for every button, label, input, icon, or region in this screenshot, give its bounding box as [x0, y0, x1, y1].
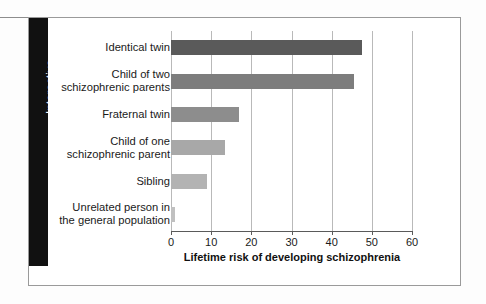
- x-axis-tick: [211, 231, 212, 235]
- x-axis-tick: [292, 231, 293, 235]
- bar: [171, 207, 175, 222]
- x-axis-tick-label: 10: [205, 236, 217, 248]
- bar: [171, 74, 354, 89]
- bar: [171, 174, 207, 189]
- x-axis-title: Lifetime risk of developing schizophreni…: [171, 251, 413, 263]
- bar: [171, 107, 239, 122]
- top-rule-divider: [0, 17, 29, 18]
- x-axis-tick-label: 60: [406, 236, 418, 248]
- gridline: [412, 31, 413, 231]
- gridline: [332, 31, 333, 231]
- x-axis-tick-label: 40: [326, 236, 338, 248]
- x-axis-tick-label: 0: [168, 236, 174, 248]
- category-label: Child of one schizophrenic parent: [67, 135, 170, 161]
- x-axis-tick-label: 50: [366, 236, 378, 248]
- bar: [171, 140, 225, 155]
- x-axis-tick: [332, 231, 333, 235]
- x-axis-tick-label: 20: [245, 236, 257, 248]
- interactive-tab[interactable]: Interactive: [29, 18, 48, 266]
- bar: [171, 40, 362, 55]
- x-axis-tick: [251, 231, 252, 235]
- gridline: [171, 31, 172, 231]
- gridline: [211, 31, 212, 231]
- x-axis-tick: [372, 231, 373, 235]
- gridline: [292, 31, 293, 231]
- x-axis-tick-label: 30: [285, 236, 297, 248]
- category-label: Child of two schizophrenic parents: [61, 68, 170, 94]
- gridline: [251, 31, 252, 231]
- x-axis-tick: [171, 231, 172, 235]
- x-axis-tick: [412, 231, 413, 235]
- plot-area: 0102030405060: [171, 31, 412, 231]
- category-label: Identical twin: [105, 41, 170, 54]
- category-label: Unrelated person in the general populati…: [59, 201, 170, 227]
- category-label: Fraternal twin: [102, 108, 170, 121]
- gridline: [372, 31, 373, 231]
- category-labels: Identical twinChild of two schizophrenic…: [48, 18, 170, 285]
- bar-chart: Identical twinChild of two schizophrenic…: [48, 18, 460, 285]
- category-label: Sibling: [136, 175, 170, 188]
- page-background: Interactive Identical twinChild of two s…: [0, 0, 486, 304]
